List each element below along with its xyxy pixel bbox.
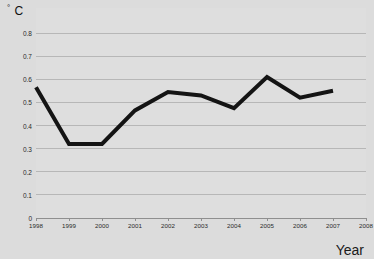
y-axis-tick-label: 0.2 <box>10 168 32 175</box>
x-axis-tick-label: 2007 <box>326 222 340 229</box>
chart-figure: ° C Year 00.10.20.30.40.50.60.70.8 19981… <box>0 0 374 259</box>
y-axis-title: ° C <box>7 4 24 17</box>
x-axis-tick-label: 2006 <box>293 222 307 229</box>
x-axis-tick-label: 2001 <box>128 222 142 229</box>
x-axis-tick-label: 2005 <box>260 222 274 229</box>
y-axis-unit-letter: C <box>15 4 24 18</box>
x-axis-tick-label: 2008 <box>359 222 373 229</box>
plot-background <box>36 8 366 218</box>
plot-area <box>0 0 374 259</box>
y-axis-tick-label: 0.7 <box>10 53 32 60</box>
x-axis-title: Year <box>336 243 364 257</box>
x-axis-tick-label: 1999 <box>62 222 76 229</box>
y-axis-tick-label: 0 <box>10 215 32 222</box>
y-axis-tick-label: 0.3 <box>10 145 32 152</box>
line-chart-svg <box>0 0 374 259</box>
x-axis-tick-label: 1998 <box>29 222 43 229</box>
gridlines-group <box>36 8 366 218</box>
degree-symbol: ° <box>7 3 11 12</box>
x-axis-tick-label: 2003 <box>194 222 208 229</box>
x-axis-tick-label: 2002 <box>161 222 175 229</box>
y-axis-tick-label: 0.4 <box>10 122 32 129</box>
y-axis-tick-label: 0.6 <box>10 76 32 83</box>
x-axis-tick-label: 2004 <box>227 222 241 229</box>
y-axis-tick-label: 0.8 <box>10 30 32 37</box>
x-axis-tick-label: 2000 <box>95 222 109 229</box>
y-axis-tick-label: 0.5 <box>10 99 32 106</box>
y-axis-tick-label: 0.1 <box>10 191 32 198</box>
